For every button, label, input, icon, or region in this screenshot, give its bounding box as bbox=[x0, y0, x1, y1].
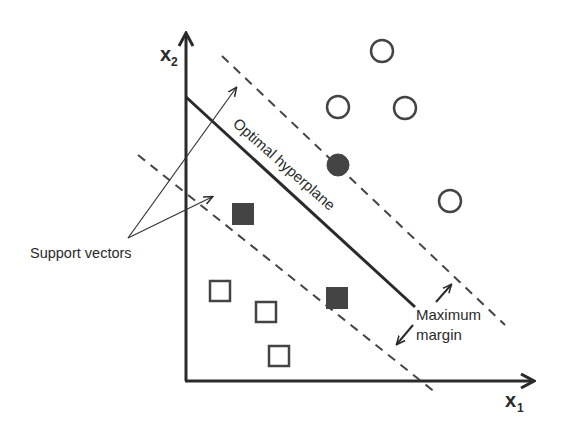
support-arrow-lower bbox=[128, 197, 212, 238]
data-point-circle bbox=[371, 40, 393, 62]
support-arrow-upper bbox=[128, 88, 236, 238]
data-point-square bbox=[256, 302, 276, 322]
support-vector-square bbox=[232, 203, 254, 225]
support-vector-square bbox=[326, 287, 348, 309]
margin-label-line1: Maximum bbox=[416, 306, 481, 323]
svm-diagram: x 2 x 1 Optimal hyperplane Support vecto… bbox=[0, 0, 564, 428]
data-point-square bbox=[269, 346, 289, 366]
data-point-circle bbox=[327, 96, 349, 118]
upper-margin-line bbox=[222, 56, 505, 325]
x-axis-label: x 1 bbox=[505, 389, 524, 415]
svg-text:2: 2 bbox=[171, 55, 178, 69]
svg-text:x: x bbox=[160, 43, 171, 65]
data-point-square bbox=[210, 281, 230, 301]
margin-label-line2: margin bbox=[416, 326, 462, 343]
class-circles bbox=[327, 40, 461, 212]
margin-arrow-down bbox=[397, 325, 413, 344]
hyperplane-label: Optimal hyperplane bbox=[230, 115, 339, 214]
data-point-circle bbox=[439, 190, 461, 212]
optimal-hyperplane bbox=[186, 97, 415, 307]
svg-text:1: 1 bbox=[517, 401, 524, 415]
margin-arrow-up bbox=[436, 285, 451, 302]
data-point-circle bbox=[394, 97, 416, 119]
support-vector-circle bbox=[327, 154, 349, 176]
y-axis-label: x 2 bbox=[160, 43, 178, 69]
svg-text:x: x bbox=[505, 389, 516, 411]
support-vectors-label: Support vectors bbox=[30, 245, 132, 261]
